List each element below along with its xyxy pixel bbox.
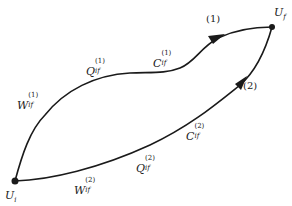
- path-1-curve: [15, 27, 272, 181]
- path-1-tag: (1): [206, 14, 220, 24]
- initial-state-label: Ui: [5, 190, 17, 201]
- c-path-2-label: C(2)if: [186, 128, 205, 142]
- c-path-1-label: C(1)if: [153, 55, 172, 69]
- work-path-2-label: W(2)if: [74, 182, 96, 196]
- heat-path-1-label: Q(1)if: [86, 63, 106, 77]
- path-diagram: [0, 0, 292, 206]
- initial-state-point: [12, 178, 19, 185]
- final-state-point: [269, 24, 275, 30]
- work-path-1-label: W(1)if: [17, 97, 39, 111]
- path-2-curve: [15, 27, 272, 181]
- final-state-label: Uf: [274, 7, 286, 18]
- heat-path-2-label: Q(2)if: [136, 160, 156, 174]
- path-2-tag: (2): [243, 81, 257, 91]
